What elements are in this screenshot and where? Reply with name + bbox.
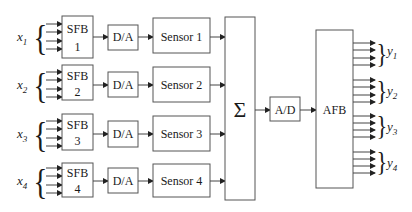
sfb-title: SFB <box>67 166 88 180</box>
brace-icon: { <box>34 162 48 202</box>
brace-icon: } <box>377 110 388 141</box>
brace-icon: { <box>34 115 48 155</box>
input-label-x1: x1 <box>16 29 27 47</box>
sfb-title: SFB <box>67 22 88 36</box>
input-row-1: x1 { SFB 1 D/A Sensor 1 <box>16 16 225 58</box>
input-label-x2: x2 <box>16 77 28 95</box>
brace-icon: { <box>34 18 48 58</box>
sigma-symbol: Σ <box>234 97 247 122</box>
dac-label: D/A <box>113 174 134 188</box>
afb-label: AFB <box>323 103 346 117</box>
sensor-label: Sensor 4 <box>161 174 203 188</box>
input-row-2: x2 { SFB 2 D/A Sensor 2 <box>16 65 225 106</box>
summer: Σ <box>225 17 255 200</box>
sfb-index: 3 <box>75 134 81 148</box>
output-group-4: } y4 <box>353 146 398 177</box>
output-group-3: } y3 <box>353 110 398 141</box>
sfb-title: SFB <box>67 118 88 132</box>
sensor-label: Sensor 3 <box>161 127 203 141</box>
sensor-label: Sensor 2 <box>161 78 203 92</box>
sensor-label: Sensor 1 <box>161 30 203 44</box>
output-group-1: } y1 <box>353 38 397 69</box>
brace-icon: } <box>377 38 388 69</box>
brace-icon: { <box>34 66 48 106</box>
afb: AFB <box>316 30 353 188</box>
sfb-title: SFB <box>67 69 88 83</box>
sfb-index: 4 <box>75 182 81 196</box>
sfb-index: 2 <box>75 85 81 99</box>
input-label-x4: x4 <box>16 173 28 191</box>
output-group-2: } y2 <box>353 75 398 106</box>
block-diagram: x1 { SFB 1 D/A Sensor 1 x2 { SFB 2 D/A S… <box>0 0 412 212</box>
brace-icon: } <box>377 146 388 177</box>
input-row-3: x3 { SFB 3 D/A Sensor 3 <box>16 114 225 155</box>
dac-label: D/A <box>113 78 134 92</box>
brace-icon: } <box>377 75 388 106</box>
dac-label: D/A <box>113 127 134 141</box>
input-row-4: x4 { SFB 4 D/A Sensor 4 <box>16 162 225 202</box>
dac-label: D/A <box>113 30 134 44</box>
adc: A/D <box>270 97 300 121</box>
input-label-x3: x3 <box>16 126 28 144</box>
sfb-index: 1 <box>75 40 81 54</box>
adc-label: A/D <box>275 103 296 117</box>
